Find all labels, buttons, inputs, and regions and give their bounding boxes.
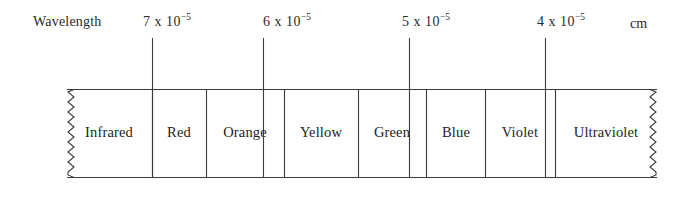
right-break-zigzag-icon: [650, 90, 656, 178]
left-break-zigzag-icon: [68, 90, 74, 178]
spectrum-linework: [0, 0, 693, 200]
spectrum-diagram: Wavelength 7 x 10−5 6 x 10−5 5 x 10−5 4 …: [0, 0, 693, 200]
